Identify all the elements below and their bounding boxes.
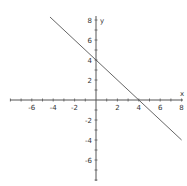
y-tick-label: 2: [88, 77, 92, 85]
x-tick-label: 2: [115, 104, 119, 112]
y-tick-label: 8: [88, 17, 92, 25]
y-tick-label: -4: [85, 137, 93, 145]
y-tick-label: 6: [88, 37, 93, 45]
y-tick-label: 4: [88, 57, 93, 65]
x-axis-label: x: [180, 90, 184, 98]
y-tick-label: -2: [85, 117, 92, 125]
x-tick-label: -2: [71, 104, 78, 112]
y-axis-label: y: [100, 17, 104, 25]
x-tick-label: -6: [28, 104, 36, 112]
x-tick-label: 6: [158, 104, 163, 112]
plot-area: [50, 17, 182, 140]
series-line: [50, 17, 182, 140]
x-tick-label: 8: [179, 104, 183, 112]
y-tick-label: -6: [85, 157, 93, 165]
x-tick-label: -4: [50, 104, 58, 112]
x-tick-label: 4: [137, 104, 142, 112]
line-chart: -6-4-224688642-2-4-6xy: [0, 0, 187, 186]
axes: -6-4-224688642-2-4-6xy: [10, 16, 184, 181]
